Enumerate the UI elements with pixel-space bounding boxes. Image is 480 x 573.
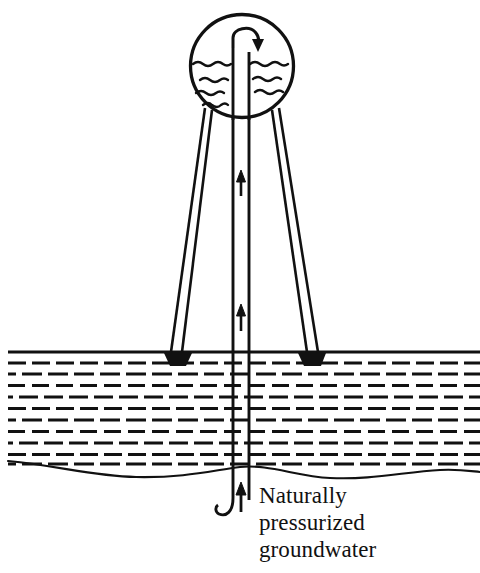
riser-flow-arrows: [236, 170, 246, 512]
support-leg-right: [272, 108, 318, 352]
flow-arrow-lower: [237, 304, 246, 331]
caption-line-1: Naturally: [259, 483, 347, 508]
flow-arrow-intake: [236, 482, 246, 512]
caption-line-3: groundwater: [259, 537, 377, 562]
flow-arrow-upper: [237, 170, 246, 196]
diagram-canvas: Naturally pressurized groundwater: [0, 0, 480, 573]
caption-line-2: pressurized: [259, 510, 365, 535]
riser-left-wall-and-intake-hook: [216, 48, 233, 515]
caption-group: Naturally pressurized groundwater: [259, 483, 377, 562]
artesian-water-tower-figure: Naturally pressurized groundwater: [0, 0, 480, 573]
aquifer-dash-hatching: [0, 363, 480, 464]
support-leg-left: [171, 108, 212, 352]
ground-group: [0, 352, 480, 478]
